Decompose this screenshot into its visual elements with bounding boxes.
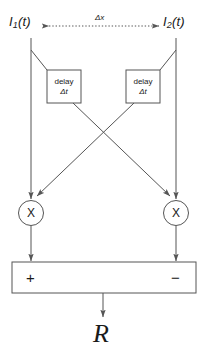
summation-plus-sign: + xyxy=(26,269,35,286)
result-label: R xyxy=(93,319,109,349)
diagram-lines xyxy=(0,0,207,360)
left-input-arg: (t) xyxy=(18,14,31,29)
diagram-canvas: I1(t) I2(t) Δx delay Δt delay Δt X X + −… xyxy=(0,0,207,360)
right-delay-cross-line xyxy=(37,103,134,196)
distance-label: Δx xyxy=(95,13,104,22)
left-input-label: I1(t) xyxy=(9,14,31,30)
left-delay-line1: delay xyxy=(54,77,73,86)
left-delay-line2: Δt xyxy=(60,87,68,96)
left-multiplier-symbol: X xyxy=(19,206,43,220)
right-input-label: I2(t) xyxy=(163,14,185,30)
right-input-branch xyxy=(160,50,176,70)
left-input-branch xyxy=(31,50,47,70)
right-multiplier-symbol: X xyxy=(164,206,188,220)
summation-minus-sign: − xyxy=(171,269,180,286)
summation-box xyxy=(12,262,196,293)
right-delay-label: delay Δt xyxy=(126,77,160,97)
right-delay-line2: Δt xyxy=(139,87,147,96)
right-delay-line1: delay xyxy=(133,77,152,86)
left-delay-cross-line xyxy=(73,103,170,196)
left-delay-label: delay Δt xyxy=(47,77,81,97)
right-input-arg: (t) xyxy=(172,14,185,29)
